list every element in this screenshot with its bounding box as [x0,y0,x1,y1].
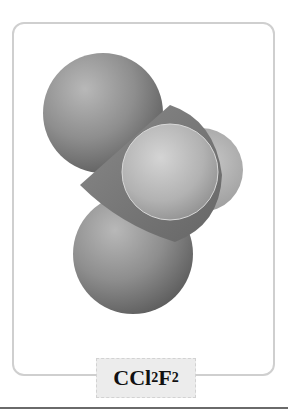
formula-label: CCl2F2 [96,358,196,398]
formula-part-f: F [158,365,171,391]
bottom-divider [0,407,288,409]
fluorine-atom-front [122,124,218,220]
space-filling-molecule-model [0,0,288,419]
formula-part-ccl: CCl [113,365,151,391]
